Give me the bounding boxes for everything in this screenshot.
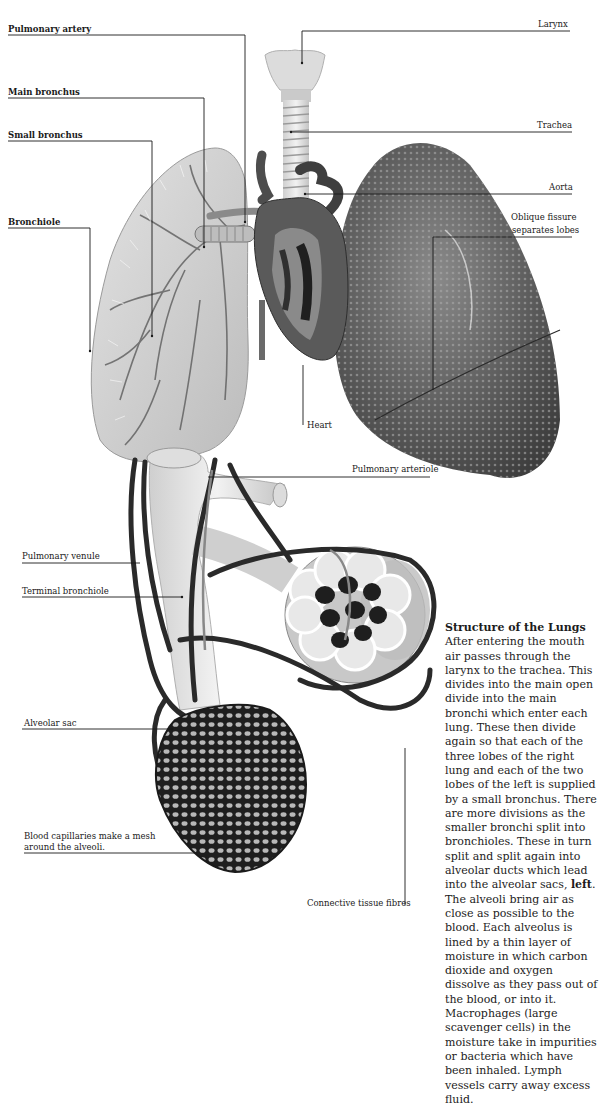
label-oblique-fissure-line1: Oblique fissure (511, 212, 576, 223)
label-pulmonary-artery: Pulmonary artery (8, 24, 91, 35)
label-larynx: Larynx (538, 19, 568, 30)
label-alveolar-sac: Alveolar sac (24, 718, 77, 729)
label-heart: Heart (307, 420, 332, 431)
label-oblique-fissure-line2: separates lobes (512, 225, 579, 236)
article-body-part2: . The alveoli bring air as close as poss… (445, 878, 597, 1105)
label-small-bronchus: Small bronchus (8, 130, 83, 141)
label-terminal-bronchiole: Terminal bronchiole (22, 586, 109, 597)
article: Structure of the Lungs After entering th… (445, 621, 601, 1107)
label-main-bronchus: Main bronchus (8, 87, 80, 98)
article-title: Structure of the Lungs (445, 621, 601, 635)
label-pulmonary-venule: Pulmonary venule (22, 551, 100, 562)
bronchiole-cutaway (147, 448, 290, 710)
article-body: After entering the mouth air passes thro… (445, 635, 601, 1107)
article-body-part1: After entering the mouth air passes thro… (445, 635, 597, 891)
larynx-trachea (265, 50, 325, 200)
label-blood-capillaries-line2: around the alveoli. (24, 842, 105, 853)
label-blood-capillaries-line1: Blood capillaries make a mesh (24, 831, 155, 842)
label-pulmonary-arteriole: Pulmonary arteriole (352, 464, 438, 475)
alveolar-sac (156, 705, 306, 872)
article-body-bold: left (571, 878, 592, 891)
label-aorta: Aorta (549, 182, 573, 193)
label-bronchiole: Bronchiole (8, 217, 60, 228)
label-trachea: Trachea (537, 120, 572, 131)
right-lung-cutaway (91, 148, 270, 462)
left-lung-external (333, 143, 560, 478)
label-connective-tissue: Connective tissue fibres (307, 898, 411, 909)
